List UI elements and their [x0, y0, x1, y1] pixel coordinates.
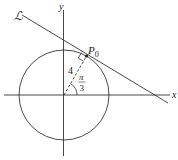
tangent-line — [22, 15, 168, 103]
angle-arc — [71, 84, 78, 95]
line-label: ℒ — [14, 9, 23, 23]
tangent-line-diagram: ℒ y x P0 4 π 3 — [0, 0, 178, 160]
x-axis-label: x — [171, 89, 177, 100]
angle-numerator: π — [79, 72, 84, 82]
diagram-svg: ℒ y x P0 4 π 3 — [0, 0, 178, 160]
point-label: P0 — [87, 44, 99, 59]
radius-label: 4 — [68, 65, 73, 76]
angle-denominator: 3 — [80, 83, 85, 93]
y-axis-label: y — [58, 1, 64, 12]
